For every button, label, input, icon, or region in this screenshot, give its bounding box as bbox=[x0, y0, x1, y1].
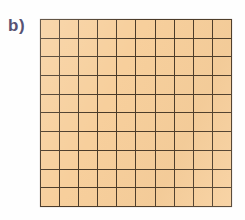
grid-cell bbox=[212, 169, 231, 188]
grid-cell bbox=[117, 76, 136, 95]
grid-cell bbox=[212, 132, 231, 151]
grid-cell bbox=[136, 113, 155, 132]
grid-cell bbox=[136, 20, 155, 39]
grid-row bbox=[41, 169, 232, 188]
grid-cell bbox=[155, 113, 174, 132]
grid-cell bbox=[212, 20, 231, 39]
grid-cell bbox=[212, 94, 231, 113]
grid-cell bbox=[98, 20, 117, 39]
grid-row bbox=[41, 150, 232, 169]
grid-cell bbox=[117, 113, 136, 132]
grid-cell bbox=[155, 20, 174, 39]
grid-cell bbox=[174, 94, 193, 113]
grid-cell bbox=[155, 76, 174, 95]
grid-cell bbox=[212, 57, 231, 76]
grid-cell bbox=[155, 169, 174, 188]
grid-row bbox=[41, 94, 232, 113]
grid-cell bbox=[193, 132, 212, 151]
grid-cell bbox=[117, 169, 136, 188]
grid-cell bbox=[60, 38, 79, 57]
grid-row bbox=[41, 38, 232, 57]
grid-cell bbox=[60, 57, 79, 76]
grid-row bbox=[41, 76, 232, 95]
grid-cell bbox=[174, 76, 193, 95]
grid-cell bbox=[79, 57, 98, 76]
grid-cell bbox=[41, 132, 60, 151]
grid-cell bbox=[41, 150, 60, 169]
grid-cell bbox=[155, 94, 174, 113]
grid-cell bbox=[117, 188, 136, 207]
grid-cell bbox=[117, 150, 136, 169]
grid-cell bbox=[193, 169, 212, 188]
grid-cell bbox=[41, 188, 60, 207]
grid-cell bbox=[193, 113, 212, 132]
grid-cell bbox=[98, 76, 117, 95]
grid-cell bbox=[41, 76, 60, 95]
grid-cell bbox=[136, 94, 155, 113]
grid-cell bbox=[193, 150, 212, 169]
grid-cell bbox=[79, 132, 98, 151]
grid-cell bbox=[193, 38, 212, 57]
grid-cell bbox=[155, 38, 174, 57]
grid-cell bbox=[117, 20, 136, 39]
grid-cell bbox=[174, 188, 193, 207]
grid-cell bbox=[136, 132, 155, 151]
grid-cell bbox=[60, 113, 79, 132]
grid-cell bbox=[79, 113, 98, 132]
grid-cell bbox=[155, 132, 174, 151]
grid-cell bbox=[79, 38, 98, 57]
grid-row bbox=[41, 57, 232, 76]
grid-cell bbox=[212, 76, 231, 95]
grid-cell bbox=[60, 94, 79, 113]
grid-body bbox=[41, 20, 232, 207]
figure-container: b) bbox=[0, 0, 245, 220]
figure-label: b) bbox=[8, 17, 25, 34]
grid-cell bbox=[79, 20, 98, 39]
grid-cell bbox=[136, 188, 155, 207]
grid-cell bbox=[41, 169, 60, 188]
grid-cell bbox=[155, 57, 174, 76]
grid-cell bbox=[136, 169, 155, 188]
grid-cell bbox=[212, 38, 231, 57]
grid-cell bbox=[174, 57, 193, 76]
grid-cell bbox=[174, 150, 193, 169]
grid-cell bbox=[98, 188, 117, 207]
grid-cell bbox=[136, 57, 155, 76]
grid-cell bbox=[41, 38, 60, 57]
grid-cell bbox=[212, 113, 231, 132]
grid-cell bbox=[193, 188, 212, 207]
grid-cell bbox=[193, 57, 212, 76]
grid-cell bbox=[174, 169, 193, 188]
grid-cell bbox=[79, 94, 98, 113]
grid-cell bbox=[98, 132, 117, 151]
grid-cell bbox=[79, 76, 98, 95]
grid-cell bbox=[79, 150, 98, 169]
hundred-square-grid bbox=[40, 19, 232, 207]
grid-cell bbox=[193, 76, 212, 95]
grid-cell bbox=[174, 132, 193, 151]
grid-cell bbox=[155, 150, 174, 169]
grid-cell bbox=[117, 38, 136, 57]
grid-cell bbox=[98, 94, 117, 113]
grid-cell bbox=[117, 132, 136, 151]
grid-cell bbox=[60, 76, 79, 95]
grid-cell bbox=[98, 57, 117, 76]
grid-cell bbox=[193, 94, 212, 113]
grid-row bbox=[41, 132, 232, 151]
grid-cell bbox=[136, 150, 155, 169]
grid-cell bbox=[117, 94, 136, 113]
grid-cell bbox=[98, 150, 117, 169]
grid-cell bbox=[60, 188, 79, 207]
grid-cell bbox=[79, 169, 98, 188]
grid-cell bbox=[174, 113, 193, 132]
grid-cell bbox=[155, 188, 174, 207]
grid-table bbox=[40, 19, 232, 207]
grid-cell bbox=[174, 20, 193, 39]
grid-cell bbox=[41, 57, 60, 76]
grid-cell bbox=[212, 188, 231, 207]
grid-cell bbox=[174, 38, 193, 57]
grid-cell bbox=[41, 94, 60, 113]
grid-cell bbox=[60, 169, 79, 188]
grid-cell bbox=[60, 20, 79, 39]
grid-cell bbox=[41, 20, 60, 39]
